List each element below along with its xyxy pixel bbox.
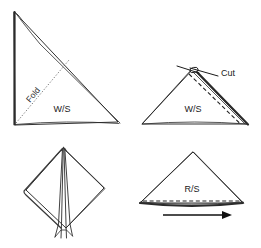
panel4-direction-arrow-head (222, 211, 232, 219)
panel-bottom-right: R/S (140, 152, 244, 219)
diagram-svg: Fold W/S Cut W/S (0, 0, 261, 248)
panel2-cut-label: Cut (221, 68, 236, 78)
panel4-rs-label: R/S (184, 184, 199, 194)
panel-top-left: Fold W/S (14, 12, 120, 125)
panel4-triangle-outline (140, 152, 243, 203)
diagram-canvas: Fold W/S Cut W/S (0, 0, 261, 248)
panel-bottom-left (24, 148, 105, 239)
panel-top-right: Cut W/S (142, 66, 248, 125)
panel3-pleat-tail (55, 230, 73, 237)
panel1-ws-label: W/S (54, 104, 71, 114)
panel2-ws-label: W/S (185, 104, 202, 114)
